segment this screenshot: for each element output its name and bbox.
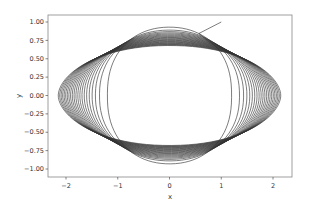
y-tick-label: 0.50 [30, 55, 44, 63]
y-axis-label: y [15, 94, 23, 98]
x-tick-label: 2 [271, 182, 275, 190]
y-tick-label: −0.75 [24, 147, 44, 155]
x-axis-label: x [168, 193, 172, 201]
y-tick-label: 0.75 [30, 37, 44, 45]
y-tick-label: −0.50 [24, 128, 44, 136]
y-tick-label: 0.00 [30, 92, 44, 100]
y-tick-label: 0.25 [30, 73, 44, 81]
x-tick-label: −2 [61, 182, 71, 190]
y-tick-label: 1.00 [30, 18, 44, 26]
x-tick-label: 0 [167, 182, 171, 190]
chart-figure: −2−1012 1.000.750.500.250.00−0.25−0.50−0… [0, 0, 310, 206]
x-tick-label: 1 [219, 182, 223, 190]
y-tick-label: −0.25 [24, 110, 44, 118]
x-tick-label: −1 [113, 182, 123, 190]
y-tick-label: −1.00 [24, 165, 44, 173]
